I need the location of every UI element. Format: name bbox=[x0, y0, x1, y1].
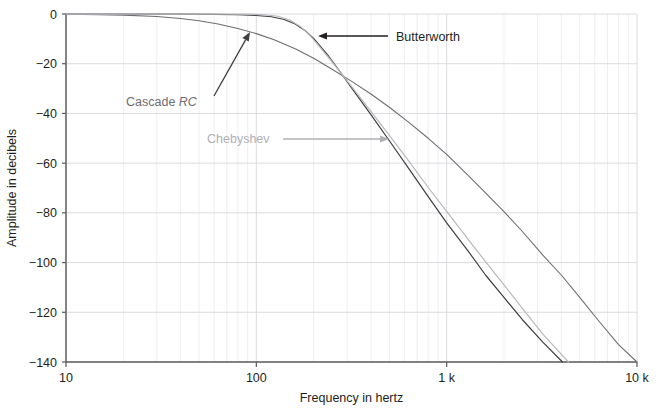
annotation-label-chebyshev: Chebyshev bbox=[207, 132, 270, 146]
annotation-label-butterworth: Butterworth bbox=[396, 30, 460, 44]
y-tick-label: 0 bbox=[50, 8, 57, 22]
y-tick-label: −40 bbox=[36, 107, 57, 121]
annotation-arrow-butterworth bbox=[318, 32, 327, 39]
data-series-curves bbox=[66, 14, 637, 362]
y-tick-label: −20 bbox=[36, 57, 57, 71]
x-axis-tick-labels: 101001 k10 k bbox=[59, 371, 650, 385]
axis-tick-marks bbox=[62, 14, 637, 367]
x-tick-label: 1 k bbox=[438, 371, 455, 385]
annotation-arrow-cascade-rc bbox=[242, 32, 250, 42]
annotation-label-cascade-rc: Cascade RC bbox=[126, 95, 198, 109]
y-axis-tick-labels: 0−20−40−60−80−100−120−140 bbox=[29, 8, 57, 370]
y-axis-title: Amplitude in decibels bbox=[5, 129, 19, 247]
y-tick-label: −80 bbox=[36, 206, 57, 220]
x-tick-label: 10 k bbox=[625, 371, 649, 385]
bode-plot-svg: 101001 k10 k 0−20−40−60−80−100−120−140 C… bbox=[0, 0, 668, 418]
annotation-arrow-chebyshev bbox=[380, 135, 389, 142]
x-axis-title: Frequency in hertz bbox=[300, 391, 404, 405]
y-tick-label: −120 bbox=[29, 306, 57, 320]
chart-root: 101001 k10 k 0−20−40−60−80−100−120−140 C… bbox=[0, 0, 668, 418]
y-tick-label: −60 bbox=[36, 157, 57, 171]
y-tick-label: −100 bbox=[29, 256, 57, 270]
x-tick-label: 10 bbox=[59, 371, 73, 385]
y-tick-label: −140 bbox=[29, 356, 57, 370]
x-tick-label: 100 bbox=[246, 371, 267, 385]
plot-axes bbox=[66, 14, 637, 362]
grid-major-lines bbox=[66, 14, 637, 362]
grid-minor-lines bbox=[123, 14, 628, 362]
